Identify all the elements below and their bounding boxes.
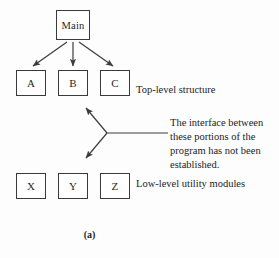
edge-interface-upper-arrow [86, 108, 107, 133]
figure-caption: (a) [0, 229, 179, 240]
module-box-z[interactable]: Z [100, 173, 130, 199]
figure-top-down-integration: Main A B C X Y Z Top-level structure Low… [0, 0, 279, 258]
module-box-c[interactable]: C [100, 70, 130, 96]
annotation-interface-note-line-3: program has not been [170, 144, 278, 158]
module-box-b-label: B [69, 77, 77, 89]
module-box-z-label: Z [112, 180, 119, 192]
module-box-y[interactable]: Y [58, 173, 88, 199]
edge-main-to-c [79, 42, 113, 66]
module-box-b[interactable]: B [58, 70, 88, 96]
annotation-interface-note-line-4: established. [170, 158, 278, 172]
module-box-c-label: C [111, 77, 119, 89]
module-box-x-label: X [27, 180, 35, 192]
module-box-y-label: Y [69, 180, 77, 192]
annotation-interface-note-line-2: these portions of the [170, 130, 278, 144]
module-box-a[interactable]: A [16, 70, 46, 96]
annotation-low-level-utility-modules: Low-level utility modules [136, 177, 245, 190]
module-box-main-label: Main [62, 20, 85, 31]
annotation-interface-note: The interface between these portions of … [170, 116, 278, 171]
module-box-a-label: A [27, 77, 35, 89]
module-box-main[interactable]: Main [56, 10, 90, 40]
annotation-interface-note-line-1: The interface between [170, 116, 278, 130]
edge-main-to-a [33, 42, 67, 66]
edge-interface-lower-arrow [86, 133, 107, 158]
annotation-top-level-structure: Top-level structure [136, 83, 215, 96]
module-box-x[interactable]: X [16, 173, 46, 199]
